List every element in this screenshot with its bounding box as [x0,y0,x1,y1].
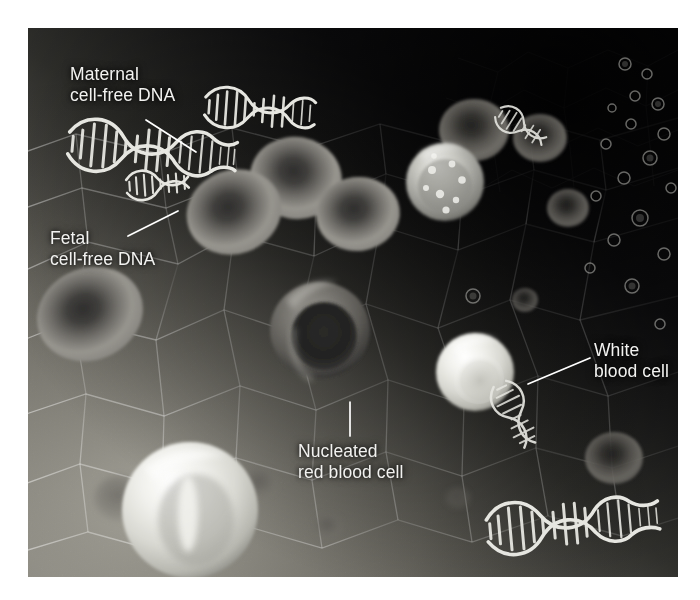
illustration-figure: Maternal cell-free DNA Fetal cell-free D… [0,0,700,600]
blood-cell-illustration-canvas: Maternal cell-free DNA Fetal cell-free D… [28,28,678,577]
grain-overlay [28,28,678,577]
illustration-svg [28,28,678,577]
